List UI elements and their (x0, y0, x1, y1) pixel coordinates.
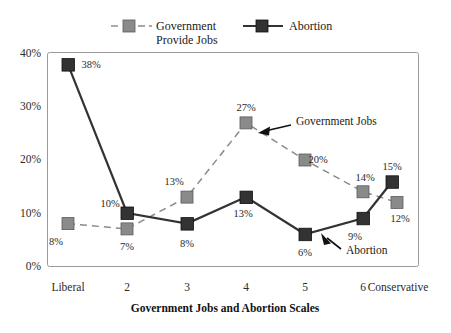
data-point-abortion-0 (62, 59, 75, 72)
series-abortion: 38% 10% 8% 13% 6% 9% 15% (62, 59, 402, 258)
data-label-gov-jobs-0: 8% (49, 236, 63, 247)
chart-legend: Government Provide Jobs Abortion (111, 19, 332, 47)
data-label-abortion-6: 15% (382, 161, 402, 172)
plot-area-frame (48, 53, 419, 267)
y-tick-label-10: 10% (20, 207, 42, 219)
data-point-abortion-3 (240, 191, 253, 204)
data-label-gov-jobs-1: 7% (120, 241, 134, 252)
legend-marker-government-provide-jobs (123, 20, 135, 32)
data-label-abortion-1: 10% (100, 198, 120, 209)
y-tick-label-40: 40% (20, 47, 42, 59)
annotation-government-jobs: Government Jobs (258, 115, 377, 136)
x-tick-label-liberal: Liberal (51, 281, 84, 293)
data-point-abortion-6 (386, 176, 399, 189)
data-label-abortion-3: 13% (233, 208, 253, 219)
x-tick-label-4: 4 (243, 281, 249, 293)
y-tick-label-0: 0% (26, 260, 42, 272)
legend-item-abortion[interactable]: Abortion (243, 19, 332, 33)
data-point-gov-jobs-1 (121, 223, 133, 235)
data-point-abortion-1 (121, 207, 134, 220)
annotation-arrowhead-government-jobs (258, 127, 270, 136)
data-label-gov-jobs-2: 13% (164, 176, 184, 187)
legend-item-government-provide-jobs[interactable]: Government Provide Jobs (111, 19, 218, 47)
y-tick-label-20: 20% (20, 153, 42, 165)
data-label-abortion-2: 8% (180, 238, 194, 249)
data-point-gov-jobs-5 (357, 186, 369, 198)
y-tick-label-30: 30% (20, 100, 42, 112)
data-label-gov-jobs-5: 14% (355, 172, 375, 183)
data-point-abortion-4 (299, 228, 312, 241)
data-label-gov-jobs-6: 12% (390, 213, 410, 224)
legend-label-government-line2: Provide Jobs (156, 33, 218, 47)
data-point-gov-jobs-3 (240, 117, 252, 129)
data-point-abortion-5 (357, 212, 370, 225)
annotation-label-abortion: Abortion (346, 244, 388, 256)
x-tick-label-conservative: Conservative (368, 281, 429, 293)
data-point-gov-jobs-0 (62, 218, 74, 230)
x-axis-title: Government Jobs and Abortion Scales (131, 302, 320, 314)
legend-label-abortion: Abortion (289, 19, 332, 33)
x-tick-label-5: 5 (302, 281, 308, 293)
x-tick-label-3: 3 (184, 281, 190, 293)
x-tick-label-2: 2 (124, 281, 130, 293)
legend-marker-abortion (256, 20, 268, 32)
chart-page: Government Provide Jobs Abortion 40% 30%… (0, 0, 451, 333)
y-axis-tick-labels: 40% 30% 20% 10% 0% (20, 47, 42, 272)
annotation-label-government-jobs: Government Jobs (296, 115, 377, 127)
data-point-abortion-2 (181, 218, 194, 231)
data-label-abortion-5: 9% (348, 231, 362, 242)
data-label-gov-jobs-3: 27% (236, 102, 256, 113)
legend-label-government-line1: Government (156, 19, 217, 33)
line-chart: Government Provide Jobs Abortion 40% 30%… (0, 0, 451, 333)
data-label-abortion-0: 38% (81, 59, 101, 70)
x-tick-label-6: 6 (360, 281, 366, 293)
data-label-abortion-4: 6% (298, 247, 312, 258)
data-label-gov-jobs-4: 20% (308, 154, 328, 165)
data-point-gov-jobs-6 (391, 196, 403, 208)
data-point-gov-jobs-2 (181, 191, 193, 203)
x-axis-tick-labels: Liberal 2 3 4 5 6 Conservative (51, 281, 428, 293)
